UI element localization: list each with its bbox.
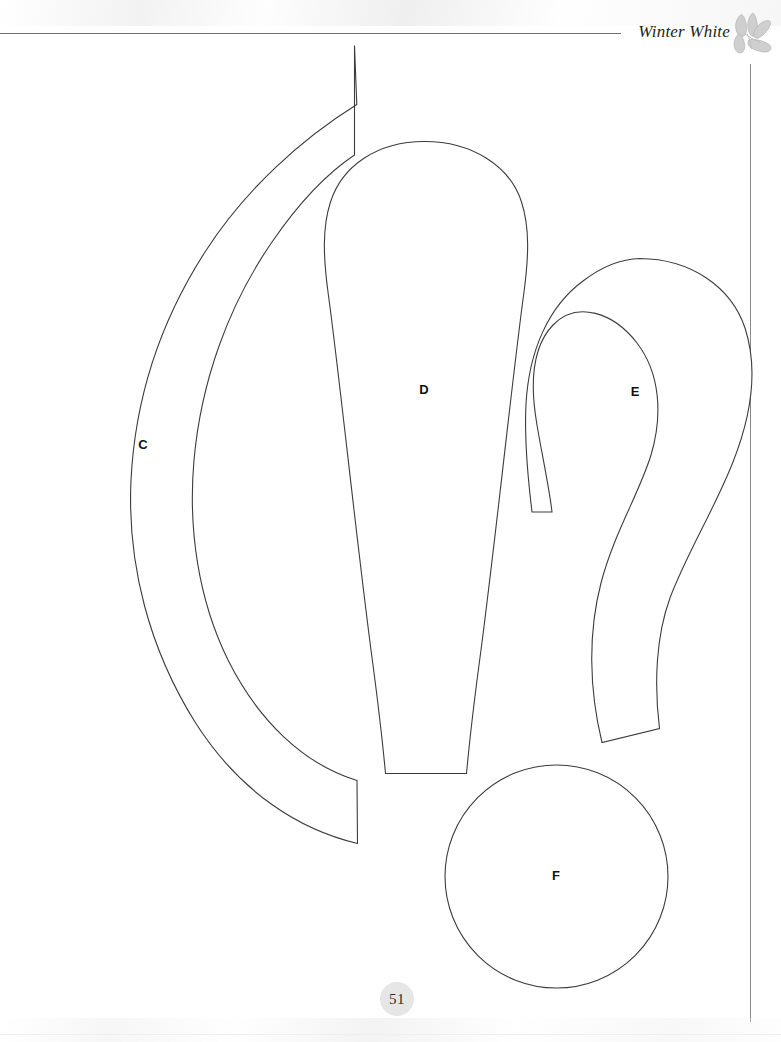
pattern-piece-d-label: D <box>419 382 428 397</box>
pattern-piece-d[interactable] <box>324 142 527 774</box>
pattern-piece-c[interactable] <box>131 46 358 844</box>
page-number-badge: 51 <box>380 982 414 1016</box>
pattern-page: Winter White C D <box>0 0 781 1042</box>
bottom-rule <box>0 1034 781 1035</box>
pattern-piece-e-label: E <box>631 384 640 399</box>
pattern-piece-e[interactable] <box>525 259 751 743</box>
pattern-diagram: C D E F <box>0 0 781 1042</box>
pattern-piece-f-label: F <box>552 868 560 883</box>
pattern-piece-c-label: C <box>138 437 148 452</box>
